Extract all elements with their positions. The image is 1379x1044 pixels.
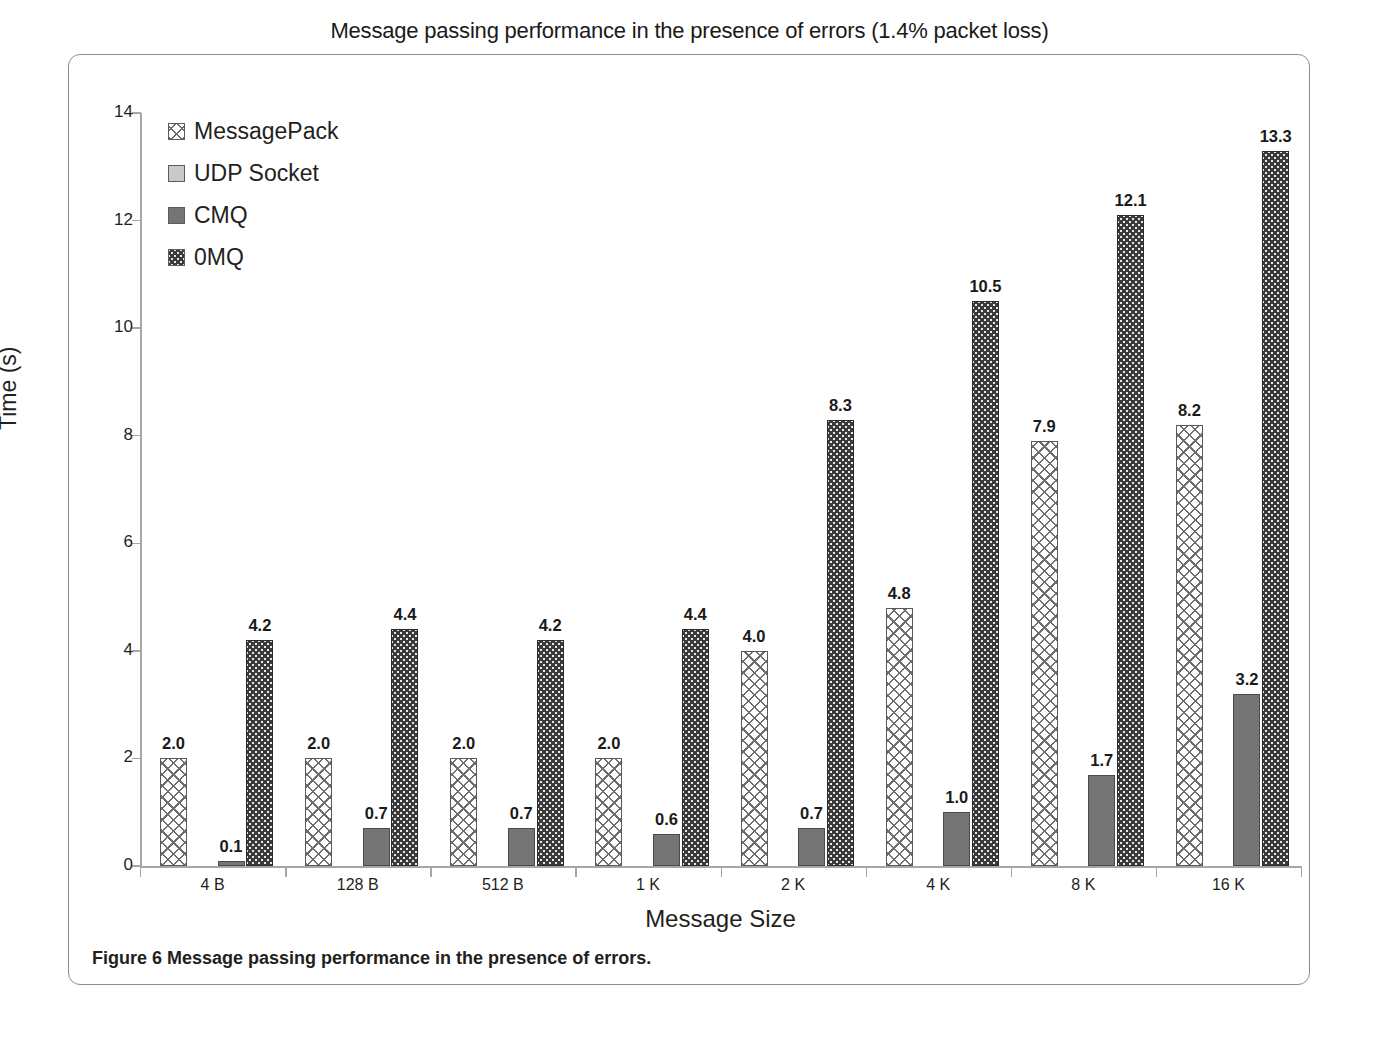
y-tick-label-4: 4 [95, 640, 133, 660]
bar-cmq-2K [798, 828, 825, 866]
x-axis-separator [1301, 866, 1302, 877]
x-category-label: 16 K [1156, 876, 1301, 894]
caption-text: Message passing performance in the prese… [162, 948, 651, 968]
bar-0mq-1K [682, 629, 709, 866]
bar-value-label: 2.0 [597, 734, 620, 753]
bar-value-label: 4.2 [248, 616, 271, 635]
bar-cmq-8K [1088, 775, 1115, 866]
bar-value-label: 1.7 [1090, 751, 1113, 770]
bar-messagepack-4K [886, 608, 913, 866]
bar-cmq-128B [363, 828, 390, 866]
y-tick-label-0: 0 [95, 855, 133, 875]
bar-messagepack-128B [305, 758, 332, 866]
bar-cmq-1K [653, 834, 680, 866]
bar-value-label: 8.3 [829, 396, 852, 415]
bar-value-label: 13.3 [1260, 127, 1292, 146]
legend-label: 0MQ [194, 244, 244, 271]
bar-messagepack-1K [595, 758, 622, 866]
bar-messagepack-16K [1176, 425, 1203, 866]
bar-value-label: 4.4 [394, 605, 417, 624]
legend-item-udp-socket[interactable]: UDP Socket [168, 152, 338, 194]
bar-0mq-128B [391, 629, 418, 866]
x-category-label: 1 K [575, 876, 720, 894]
bar-value-label: 1.0 [945, 788, 968, 807]
x-axis-title: Message Size [140, 905, 1301, 933]
bar-value-label: 10.5 [969, 277, 1001, 296]
bar-value-label: 4.2 [539, 616, 562, 635]
y-tick-label-10: 10 [95, 317, 133, 337]
bar-value-label: 8.2 [1178, 401, 1201, 420]
x-category-label: 512 B [430, 876, 575, 894]
bar-0mq-4K [972, 301, 999, 866]
x-category-label: 4 K [866, 876, 1011, 894]
bar-value-label: 0.6 [655, 810, 678, 829]
bar-value-label: 0.7 [510, 804, 533, 823]
y-tick-label-2: 2 [95, 747, 133, 767]
bar-messagepack-8K [1031, 441, 1058, 866]
bar-value-label: 4.8 [888, 584, 911, 603]
bar-value-label: 0.7 [800, 804, 823, 823]
bar-value-label: 0.7 [365, 804, 388, 823]
chart-title: Message passing performance in the prese… [0, 18, 1379, 44]
legend-swatch-icon [168, 249, 185, 266]
legend-swatch-icon [168, 207, 185, 224]
bar-cmq-4K [943, 812, 970, 866]
legend-swatch-icon [168, 165, 185, 182]
bar-cmq-512B [508, 828, 535, 866]
bar-value-label: 4.0 [743, 627, 766, 646]
legend-item-0mq[interactable]: 0MQ [168, 236, 338, 278]
bar-0mq-2K [827, 420, 854, 866]
bar-0mq-4B [246, 640, 273, 866]
y-tick-label-6: 6 [95, 532, 133, 552]
figure-caption: Figure 6 Message passing performance in … [92, 948, 651, 969]
bar-messagepack-2K [741, 651, 768, 866]
legend-swatch-icon [168, 123, 185, 140]
bar-value-label: 2.0 [452, 734, 475, 753]
bar-value-label: 2.0 [307, 734, 330, 753]
bar-cmq-16K [1233, 694, 1260, 866]
x-category-label: 2 K [721, 876, 866, 894]
legend-item-cmq[interactable]: CMQ [168, 194, 338, 236]
y-tick-label-14: 14 [95, 102, 133, 122]
bar-cmq-4B [218, 861, 245, 866]
caption-prefix: Figure 6 [92, 948, 162, 968]
y-tick-label-12: 12 [95, 210, 133, 230]
y-axis-title: Time (s) [0, 347, 22, 430]
x-category-label: 8 K [1011, 876, 1156, 894]
bar-value-label: 2.0 [162, 734, 185, 753]
chart-legend: MessagePackUDP SocketCMQ0MQ [168, 110, 338, 278]
legend-label: CMQ [194, 202, 248, 229]
bar-messagepack-512B [450, 758, 477, 866]
bar-value-label: 0.1 [220, 837, 243, 856]
legend-label: UDP Socket [194, 160, 319, 187]
legend-label: MessagePack [194, 118, 338, 145]
x-category-label: 128 B [285, 876, 430, 894]
x-category-label: 4 B [140, 876, 285, 894]
y-tick-label-8: 8 [95, 425, 133, 445]
bar-0mq-512B [537, 640, 564, 866]
bar-0mq-8K [1117, 215, 1144, 866]
bar-value-label: 3.2 [1235, 670, 1258, 689]
legend-item-messagepack[interactable]: MessagePack [168, 110, 338, 152]
bar-value-label: 7.9 [1033, 417, 1056, 436]
bar-0mq-16K [1262, 151, 1289, 866]
bar-value-label: 12.1 [1115, 191, 1147, 210]
bar-messagepack-4B [160, 758, 187, 866]
bar-value-label: 4.4 [684, 605, 707, 624]
